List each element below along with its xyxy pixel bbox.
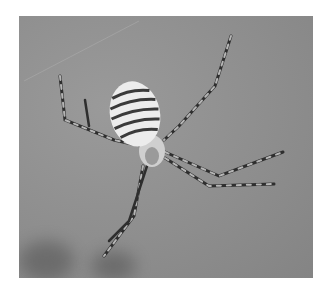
spider-photo — [19, 16, 313, 278]
spider-illustration — [19, 16, 313, 278]
